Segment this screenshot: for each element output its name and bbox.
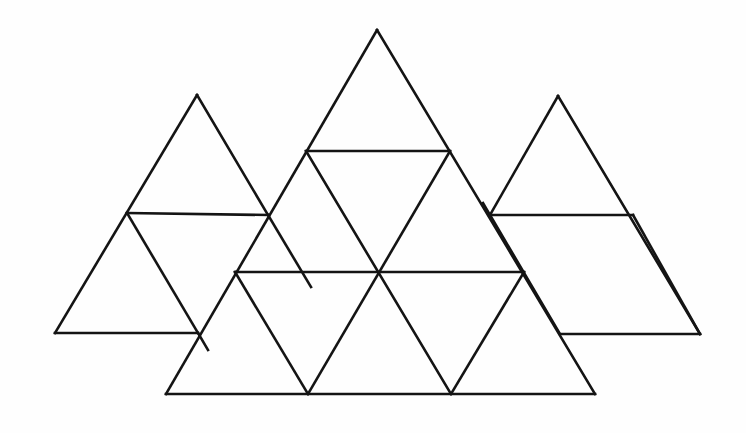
- figure-root: Overlapping triangular grid figure Three…: [0, 0, 746, 433]
- triangle-figure-svg: [0, 0, 746, 433]
